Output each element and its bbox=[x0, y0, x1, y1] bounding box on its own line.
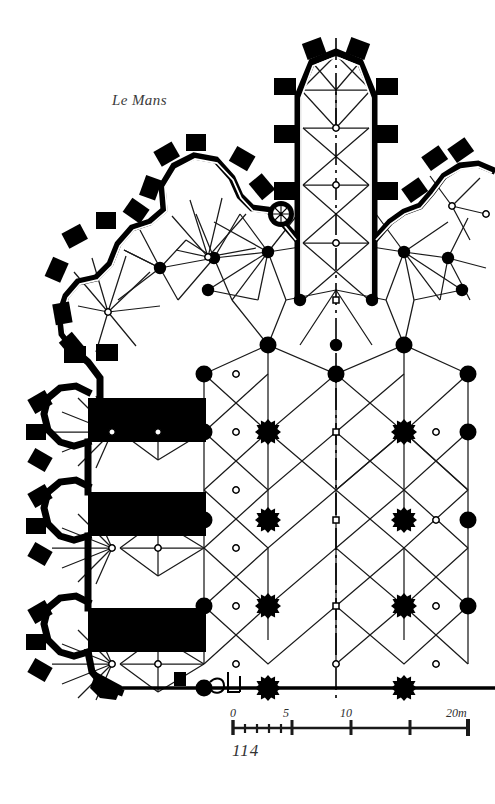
round-pier bbox=[330, 339, 342, 351]
round-pier bbox=[196, 598, 213, 615]
vault-boss bbox=[333, 429, 339, 435]
vault-boss bbox=[433, 661, 439, 667]
vault-boss bbox=[333, 125, 339, 131]
vault-boss bbox=[109, 429, 115, 435]
vault-boss bbox=[105, 309, 111, 315]
vault-boss bbox=[433, 429, 439, 435]
vault-boss bbox=[483, 211, 489, 217]
round-pier bbox=[328, 366, 345, 383]
round-pier bbox=[154, 262, 166, 274]
respond-block bbox=[174, 672, 186, 686]
vault-boss bbox=[155, 545, 161, 551]
compound-pier bbox=[255, 675, 281, 701]
buttresses bbox=[26, 37, 474, 682]
compound-pier bbox=[255, 507, 281, 533]
round-pier bbox=[460, 598, 477, 615]
round-pier bbox=[460, 366, 477, 383]
compound-pier bbox=[255, 593, 281, 619]
floor-plan-drawing bbox=[0, 0, 495, 710]
round-pier bbox=[456, 284, 468, 296]
vault-boss bbox=[233, 429, 239, 435]
round-pier bbox=[262, 246, 274, 258]
compound-pier bbox=[391, 507, 417, 533]
vault-boss bbox=[233, 661, 239, 667]
vault-boss bbox=[155, 661, 161, 667]
round-pier bbox=[196, 512, 213, 529]
vault-boss bbox=[333, 182, 339, 188]
round-pier bbox=[396, 337, 413, 354]
vault-boss bbox=[333, 240, 339, 246]
vault-boss bbox=[433, 603, 439, 609]
scale-tick-label: 5 bbox=[283, 706, 289, 720]
round-pier bbox=[202, 284, 214, 296]
scale-tick-label: 0 bbox=[230, 706, 236, 720]
solid-wall-blocks bbox=[88, 398, 206, 652]
vault-boss bbox=[333, 297, 339, 303]
vault-boss bbox=[333, 603, 339, 609]
scale-bar-rule bbox=[233, 719, 469, 736]
compound-pier bbox=[391, 593, 417, 619]
round-pier bbox=[294, 294, 306, 306]
round-pier bbox=[460, 512, 477, 529]
vault-boss bbox=[233, 603, 239, 609]
scale-bar: 0 5 10 20m bbox=[228, 706, 478, 740]
plan-linework bbox=[26, 37, 495, 701]
round-pier bbox=[366, 294, 378, 306]
vault-boss bbox=[205, 254, 211, 260]
figure-page: Le Mans bbox=[0, 0, 495, 804]
vault-boss bbox=[155, 429, 161, 435]
compound-pier bbox=[391, 675, 417, 701]
round-pier bbox=[460, 424, 477, 441]
vault-boss bbox=[449, 203, 455, 209]
vault-boss bbox=[433, 517, 439, 523]
round-pier bbox=[196, 680, 213, 697]
scale-tick-label: 20m bbox=[446, 706, 467, 720]
vault-boss bbox=[109, 661, 115, 667]
scale-tick-label: 10 bbox=[340, 706, 352, 720]
compound-pier bbox=[255, 419, 281, 445]
stair-turret-ambulatory bbox=[268, 201, 294, 227]
vault-boss bbox=[333, 517, 339, 523]
round-pier bbox=[442, 252, 454, 264]
page-number: 114 bbox=[232, 741, 259, 761]
round-pier bbox=[260, 337, 277, 354]
vault-boss bbox=[333, 661, 339, 667]
compound-pier bbox=[391, 419, 417, 445]
vault-boss bbox=[233, 371, 239, 377]
vault-boss bbox=[233, 545, 239, 551]
vault-boss bbox=[109, 545, 115, 551]
round-pier bbox=[196, 366, 213, 383]
scale-bar-labels: 0 5 10 20m bbox=[230, 706, 467, 720]
round-pier bbox=[196, 424, 213, 441]
vault-boss bbox=[233, 487, 239, 493]
round-pier bbox=[398, 246, 410, 258]
